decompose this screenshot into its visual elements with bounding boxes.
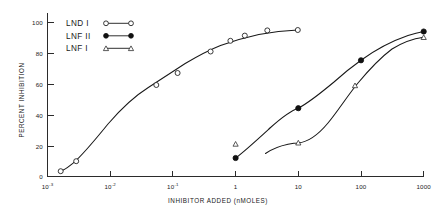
y-ticklabel-100: 100 [32, 19, 43, 26]
series-lnd-i [58, 28, 300, 174]
y-ticklabel-60: 60 [36, 81, 44, 88]
legend-label-lnf-i: LNF I [66, 44, 88, 53]
x-ticklabel-1e-2: 10-2 [104, 182, 116, 190]
legend-label-lnf-ii: LNF II [66, 32, 91, 41]
x-ticklabel-100: 100 [356, 183, 367, 190]
y-ticklabel-40: 40 [36, 112, 44, 119]
curve-lnf-i [266, 37, 424, 153]
legend-marker-open-circle-right [129, 21, 134, 26]
y-ticklabel-80: 80 [36, 50, 44, 57]
datapoint-lnd-i-1 [58, 169, 63, 174]
datapoint-lnf-i-isolated [233, 142, 238, 147]
datapoint-lnd-i-5 [208, 49, 213, 54]
x-ticklabel-1e-1: 10-1 [167, 182, 179, 190]
series-lnf-ii [233, 29, 426, 161]
datapoint-lnd-i-8 [265, 28, 270, 33]
legend: LND I LNF II LNF I [66, 19, 134, 53]
legend-label-lnd-i: LND I [66, 19, 89, 28]
y-ticklabel-20: 20 [36, 143, 44, 150]
chart-canvas: 100 80 60 40 20 0 PERCENT INHIBITION 10-… [0, 0, 432, 213]
x-axis: 10-3 10-2 10-1 1 10 100 1000 INHIBITOR A… [42, 171, 432, 206]
y-axis: 100 80 60 40 20 0 PERCENT INHIBITION [18, 13, 54, 180]
datapoint-lnd-i-6 [228, 38, 233, 43]
datapoint-lnd-i-9 [295, 28, 300, 33]
curve-lnf-ii [236, 32, 424, 159]
legend-marker-open-circle-left [104, 21, 109, 26]
figure-container: 100 80 60 40 20 0 PERCENT INHIBITION 10-… [0, 0, 432, 213]
y-axis-title: PERCENT INHIBITION [18, 62, 25, 137]
datapoint-lnd-i-2 [74, 159, 79, 164]
y-ticklabel-0: 0 [39, 173, 43, 180]
x-axis-title: INHIBITOR ADDED (nMOLES) [168, 197, 268, 205]
datapoint-lnd-i-7 [242, 33, 247, 38]
legend-marker-filled-circle-left [104, 33, 109, 38]
datapoint-lnd-i-4 [175, 71, 180, 76]
datapoint-lnf-ii-4 [421, 29, 426, 34]
datapoint-lnd-i-3 [154, 83, 159, 88]
datapoint-lnf-ii-1 [233, 155, 238, 160]
x-ticklabel-1000: 1000 [416, 183, 431, 190]
curve-lnd-i [61, 30, 298, 171]
datapoint-lnf-ii-3 [358, 58, 363, 63]
legend-marker-filled-circle-right [129, 33, 134, 38]
datapoint-lnf-ii-2 [296, 106, 301, 111]
x-ticklabel-1: 1 [234, 183, 238, 190]
x-ticklabel-10: 10 [295, 183, 303, 190]
x-ticklabel-1e-3: 10-3 [42, 182, 54, 190]
